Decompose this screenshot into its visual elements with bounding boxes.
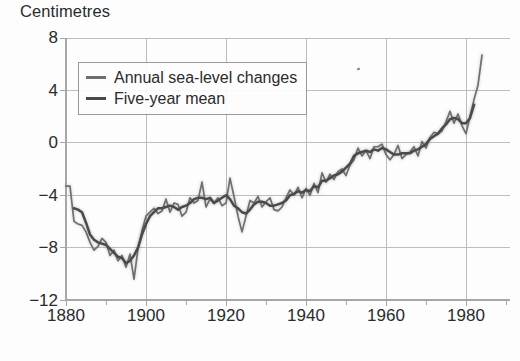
x-tick-1940: 1940 <box>287 306 325 326</box>
legend-swatch-five-year-mean <box>86 97 106 100</box>
x-tick-1880: 1880 <box>47 306 85 326</box>
x-tick-1900: 1900 <box>127 306 165 326</box>
x-tick-1980: 1980 <box>447 306 485 326</box>
x-tick-1960: 1960 <box>367 306 405 326</box>
legend-swatch-annual <box>86 76 106 79</box>
x-tick-1920: 1920 <box>207 306 245 326</box>
sea-level-chart-figure: Centimetres 8 4 0 −4 −8 −12 Annual sea-l… <box>0 0 520 361</box>
legend-item-five-year-mean: Five-year mean <box>86 88 297 109</box>
legend-label-five-year-mean: Five-year mean <box>114 90 225 108</box>
chart-legend: Annual sea-level changes Five-year mean <box>78 62 307 115</box>
legend-item-annual: Annual sea-level changes <box>86 67 297 88</box>
series-five-year-mean <box>74 105 474 264</box>
legend-label-annual: Annual sea-level changes <box>114 69 297 87</box>
